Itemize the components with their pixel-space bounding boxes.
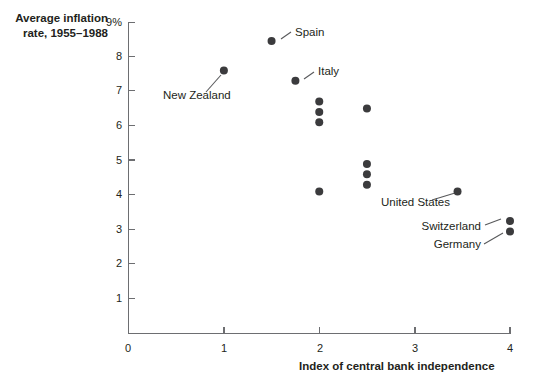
x-tick-label-3: 3 [412,342,418,354]
y-tick-label-3: 3 [116,223,122,235]
point-label: United States [381,196,450,208]
data-point-italy [291,77,299,85]
point-label: Switzerland [422,220,481,232]
x-tick-label-0: 0 [125,342,131,354]
leader-line [304,72,314,79]
data-point-united-states [454,188,462,196]
y-tick-label-8: 8 [116,50,122,62]
data-point [315,98,323,106]
data-points-layer [220,37,514,235]
y-axis-title-line1: Average inflation [15,12,108,24]
data-point-germany [506,227,514,235]
y-tick-label-7: 7 [116,84,122,96]
leader-line [281,32,291,39]
data-point [363,105,371,113]
data-point [363,170,371,178]
x-tick-label-2: 2 [317,342,323,354]
plot-area: Average inflation rate, 1955–1988 9% 8 7… [0,0,535,380]
y-tick-label-1: 1 [116,292,122,304]
point-label: New Zealand [163,89,231,101]
leader-line [485,219,501,225]
data-point [363,160,371,168]
point-label: Germany [434,238,482,250]
x-axis-title: Index of central bank independence [299,360,495,372]
point-label: Spain [295,26,324,38]
x-tick-label-1: 1 [221,342,227,354]
annotation-layer: SpainItalyNew ZealandUnited StatesSwitze… [163,26,503,250]
data-point [315,188,323,196]
data-point [363,181,371,189]
leader-line [484,233,503,244]
y-axis-ticks: 9% 8 7 6 5 4 3 2 1 [106,16,135,304]
data-point-spain [268,37,276,45]
data-point-new-zealand [220,66,228,74]
point-label: Italy [318,65,339,77]
data-point [315,108,323,116]
y-tick-label-4: 4 [116,188,122,200]
x-axis-ticks: 0 1 2 3 4 [125,327,513,354]
y-tick-label-5: 5 [116,154,122,166]
data-point-switzerland [506,217,514,225]
y-tick-label-9: 9% [106,16,122,28]
data-point [315,118,323,126]
x-tick-label-4: 4 [507,342,513,354]
y-tick-label-6: 6 [116,119,122,131]
y-tick-label-2: 2 [116,257,122,269]
scatter-chart: Average inflation rate, 1955–1988 9% 8 7… [0,0,535,380]
y-axis-title-line2: rate, 1955–1988 [23,27,109,39]
